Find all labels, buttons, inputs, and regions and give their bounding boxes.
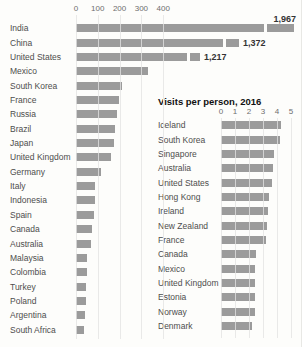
- category-label: Hong Kong: [155, 192, 221, 202]
- bar: [221, 121, 281, 129]
- bar-track: 1,217: [76, 53, 297, 61]
- bar: [76, 153, 111, 161]
- chart-row: Mexico: [155, 262, 296, 276]
- bar: [221, 250, 256, 258]
- bar-track: [221, 179, 296, 187]
- bar: [76, 225, 92, 233]
- category-label: Iceland: [155, 120, 221, 130]
- bar: [76, 240, 91, 248]
- chart-row: France: [0, 93, 297, 107]
- visits-chart: Visits per person, 2016 012345 IcelandSo…: [155, 96, 301, 347]
- category-label: United States: [0, 52, 76, 62]
- category-label: Norway: [155, 307, 221, 317]
- bar: [221, 164, 273, 172]
- bar: [221, 207, 268, 215]
- chart-row: United States: [155, 175, 296, 189]
- category-label: France: [155, 235, 221, 245]
- category-label: France: [0, 95, 76, 105]
- bar-main-segment: [76, 39, 223, 47]
- visits-rows: IcelandSouth KoreaSingaporeAustraliaUnit…: [155, 118, 296, 333]
- value-label: 1,967: [273, 14, 296, 24]
- category-label: Brazil: [0, 124, 76, 134]
- chart-row: Iceland: [155, 118, 296, 132]
- bar-main-segment: [76, 53, 187, 61]
- chart-row: South Korea: [0, 78, 297, 92]
- chart-row: United Kingdom: [155, 276, 296, 290]
- bar: [76, 139, 114, 147]
- category-label: Spain: [0, 210, 76, 220]
- bar-end-segment: [226, 39, 239, 47]
- axis-tick-label: 400: [157, 4, 170, 13]
- category-label: Australia: [0, 239, 76, 249]
- bar: [221, 308, 255, 316]
- bar: [221, 179, 272, 187]
- bar: [76, 268, 87, 276]
- category-label: Turkey: [0, 282, 76, 292]
- bar-track: [221, 265, 296, 273]
- chart-row: France: [155, 233, 296, 247]
- bar: [76, 110, 117, 118]
- category-label: South Korea: [155, 135, 221, 145]
- axis-tick-label: 200: [113, 4, 126, 13]
- category-label: Indonesia: [0, 195, 76, 205]
- bar: [221, 222, 267, 230]
- chart-row: Australia: [155, 161, 296, 175]
- bar: [76, 196, 95, 204]
- chart-row: Estonia: [155, 290, 296, 304]
- chart-row: Denmark: [155, 319, 296, 333]
- axis-tick-label: 100: [91, 4, 104, 13]
- bar: [76, 326, 84, 334]
- category-label: South Africa: [0, 325, 76, 335]
- bar-track: [221, 308, 296, 316]
- bar-track: [221, 150, 296, 158]
- bar: [221, 193, 269, 201]
- chart-row: Mexico: [0, 64, 297, 78]
- bar-end-segment: [267, 24, 294, 32]
- category-label: United States: [155, 178, 221, 188]
- category-label: Poland: [0, 296, 76, 306]
- chart-row: India1,967: [0, 21, 297, 35]
- category-label: Canada: [155, 249, 221, 259]
- bar-track: [221, 222, 296, 230]
- bar: [76, 82, 122, 90]
- bar: [221, 236, 266, 244]
- category-label: Denmark: [155, 321, 221, 331]
- category-label: China: [0, 38, 76, 48]
- bar: [76, 283, 86, 291]
- bar: [221, 136, 280, 144]
- bar: [76, 67, 148, 75]
- bar-track: [76, 82, 297, 90]
- bar: [76, 211, 94, 219]
- bar-track: [221, 121, 296, 129]
- category-label: Germany: [0, 167, 76, 177]
- bar: [221, 322, 252, 330]
- chart-row: Hong Kong: [155, 190, 296, 204]
- bar-track: 1,967: [76, 24, 297, 32]
- bar: [76, 297, 86, 305]
- bar-track: [221, 322, 296, 330]
- bar-track: 1,372: [76, 39, 297, 47]
- category-label: Canada: [0, 224, 76, 234]
- bar: [76, 125, 115, 133]
- bar-end-segment: [190, 53, 200, 61]
- category-label: Estonia: [155, 292, 221, 302]
- bar-track: [221, 236, 296, 244]
- bar-track: [221, 279, 296, 287]
- category-label: South Korea: [0, 81, 76, 91]
- bar-track: [221, 164, 296, 172]
- chart-row: Canada: [155, 247, 296, 261]
- axis-tick-label: 0: [74, 4, 78, 13]
- category-label: Colombia: [0, 267, 76, 277]
- bar: [76, 254, 87, 262]
- bar-track: [221, 193, 296, 201]
- bar: [221, 279, 255, 287]
- category-label: United Kingdom: [155, 278, 221, 288]
- bar: [76, 168, 101, 176]
- chart-row: Ireland: [155, 204, 296, 218]
- value-label: 1,372: [243, 38, 266, 48]
- category-label: Australia: [155, 163, 221, 173]
- category-label: Mexico: [155, 264, 221, 274]
- chart-panel: 0100200300400 India1,967China1,372United…: [0, 0, 302, 347]
- bar: [76, 182, 95, 190]
- bar-main-segment: [76, 24, 264, 32]
